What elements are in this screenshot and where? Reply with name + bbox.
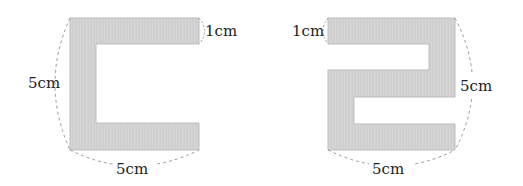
s-shape-figure: 1cm 5cm 5cm [292,18,501,178]
thickness-label: 1cm [205,22,237,40]
diagram-canvas: 1cm 5cm 5cm 1cm 5cm 5cm [0,0,523,186]
height-label: 5cm [28,74,60,92]
height-label: 5cm [460,77,492,95]
thickness-label: 1cm [292,22,324,40]
thickness-dimension-arc [199,18,205,44]
c-shape [70,18,199,150]
width-label: 5cm [372,160,404,178]
s-shape [328,18,455,150]
c-shape-figure: 1cm 5cm 5cm [28,18,237,178]
width-label: 5cm [116,160,148,178]
